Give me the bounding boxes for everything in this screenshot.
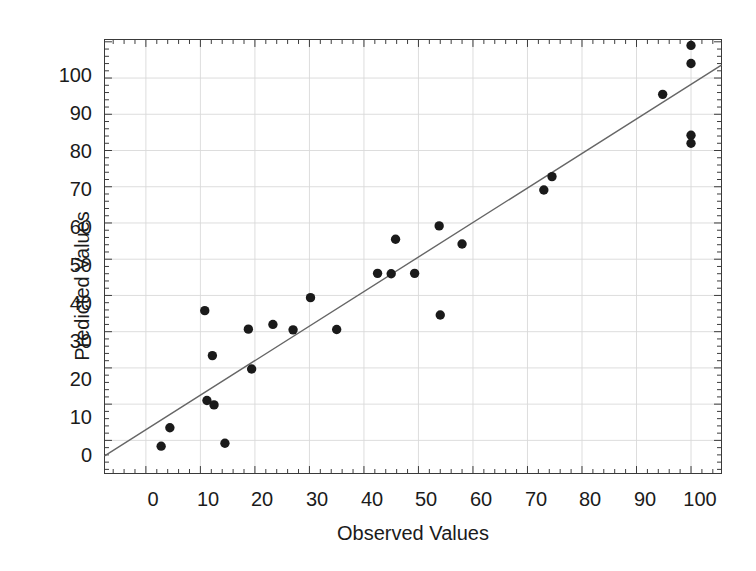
regression-line [105,65,721,455]
data-point [686,41,695,50]
data-point [547,172,556,181]
data-point [410,269,419,278]
x-tick-label: 0 [147,489,158,509]
x-tick-label: 10 [197,489,219,509]
data-point [686,139,695,148]
data-point [247,364,256,373]
x-tick-label: 50 [415,489,437,509]
y-tick-label: 20 [70,369,92,389]
x-axis-title: Observed Values [104,522,722,545]
x-tick-label: 60 [470,489,492,509]
y-tick-label: 40 [70,293,92,313]
data-point [391,235,400,244]
x-tick-label: 30 [306,489,328,509]
y-tick-label: 80 [70,141,92,161]
data-point [220,439,229,448]
y-tick-label: 50 [70,255,92,275]
data-point [686,131,695,140]
x-tick-label: 20 [251,489,273,509]
axis-ticks [105,40,721,473]
data-point [457,239,466,248]
data-point [539,185,548,194]
x-tick-label: 100 [683,489,716,509]
y-tick-label: 30 [70,331,92,351]
data-point [436,310,445,319]
data-point [268,320,277,329]
grid-lines [105,40,721,473]
scatter-plot-figure: Predicted Values 0 10 20 30 40 50 60 70 … [0,0,756,571]
data-point [387,269,396,278]
data-point [434,221,443,230]
plot-area [104,39,722,474]
data-point [244,324,253,333]
data-points [156,41,695,451]
data-point [658,90,667,99]
data-point [686,59,695,68]
data-point [306,293,315,302]
x-tick-label: 90 [634,489,656,509]
x-tick-label: 80 [579,489,601,509]
y-tick-label: 10 [70,407,92,427]
data-point [165,423,174,432]
x-tick-label: 70 [525,489,547,509]
y-tick-label: 90 [70,103,92,123]
data-point [332,325,341,334]
data-point [200,306,209,315]
data-point [156,442,165,451]
x-tick-label: 40 [361,489,383,509]
y-tick-label: 60 [70,217,92,237]
data-point [288,325,297,334]
plot-canvas [105,40,721,473]
data-point [209,400,218,409]
y-tick-label: 100 [59,65,92,85]
y-tick-label: 0 [81,445,92,465]
data-point [208,351,217,360]
y-tick-label: 70 [70,179,92,199]
data-point [373,269,382,278]
